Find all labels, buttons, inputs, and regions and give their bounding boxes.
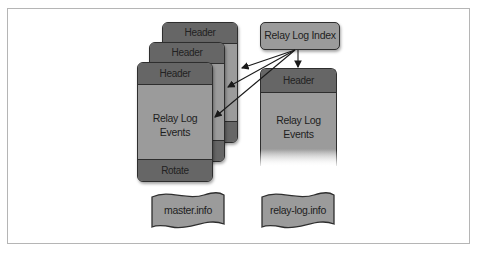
relay-log-info-label: relay-log.info	[258, 204, 338, 216]
arrow-to-front-card	[215, 50, 295, 117]
arrow-to-back-card	[242, 50, 295, 68]
master-info-label: master.info	[148, 204, 228, 216]
arrows	[0, 0, 479, 253]
arrow-to-middle-card	[228, 50, 295, 87]
